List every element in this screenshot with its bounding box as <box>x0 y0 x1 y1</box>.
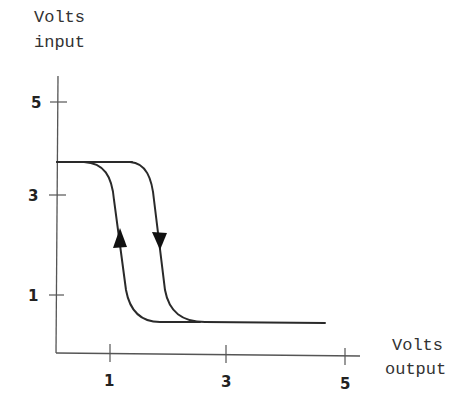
y-tick-label-1: 1 <box>28 287 38 305</box>
x-tick-label-1: 1 <box>104 372 114 390</box>
x-axis-line <box>56 353 360 356</box>
y-tick-label-5: 5 <box>31 94 41 112</box>
y-tick-label-3: 3 <box>28 187 38 205</box>
axes <box>56 76 360 356</box>
hysteresis-chart: Volts input Volts output 5 3 1 1 3 5 <box>0 0 468 418</box>
y-axis-label-line1: Volts <box>34 8 85 27</box>
x-tick-label-3: 3 <box>221 373 231 391</box>
x-axis-label-line1: Volts <box>392 336 443 355</box>
rising-curve <box>57 162 200 322</box>
arrow-up-icon <box>113 228 127 248</box>
x-tick-label-5: 5 <box>340 375 350 393</box>
hysteresis-curves <box>57 162 325 323</box>
arrow-down-icon <box>152 232 167 250</box>
y-axis-label-line2: input <box>34 33 85 52</box>
y-axis-line <box>56 76 58 353</box>
x-axis-label-line2: output <box>385 360 446 379</box>
